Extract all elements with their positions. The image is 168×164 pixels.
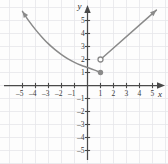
x-tick-label: 3 <box>125 90 129 98</box>
x-tick-label: 2 <box>112 90 116 98</box>
x-tick-label: 4 <box>138 90 142 98</box>
graph-figure: –5–4–3–2–11234554321–1–2–3–4–5 x y <box>0 0 168 164</box>
x-tick-label: –5 <box>16 90 24 98</box>
y-tick-label: –2 <box>77 108 85 116</box>
x-tick-label: –3 <box>42 90 50 98</box>
x-tick-label: 5 <box>151 90 155 98</box>
x-tick-label: 1 <box>99 90 103 98</box>
y-tick-label: 1 <box>81 69 85 77</box>
x-tick-label: –2 <box>55 90 63 98</box>
x-axis-label: x <box>158 90 162 99</box>
y-tick-label: –5 <box>77 147 85 155</box>
x-tick-label: –1 <box>68 90 76 98</box>
data-curves <box>23 10 157 72</box>
y-axis-label: y <box>78 2 82 11</box>
y-tick-label: –1 <box>77 95 85 103</box>
y-tick-label: 3 <box>81 43 85 51</box>
y-tick-label: 5 <box>81 17 85 25</box>
y-tick-label: 2 <box>81 56 85 64</box>
y-tick-label: –4 <box>77 134 85 142</box>
y-tick-label: 4 <box>81 30 85 38</box>
y-tick-label: –3 <box>77 121 85 129</box>
x-tick-label: –4 <box>29 90 37 98</box>
